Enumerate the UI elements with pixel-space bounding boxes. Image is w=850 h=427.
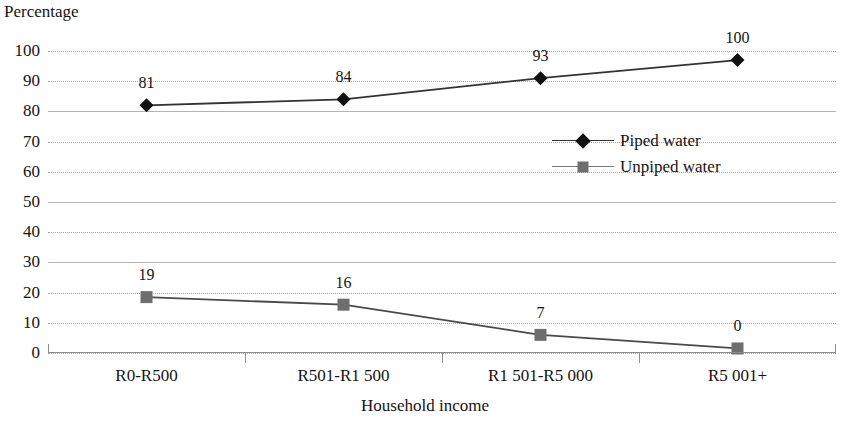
data-point-label: 19 [139, 267, 155, 283]
data-point-marker [731, 53, 745, 67]
y-tick-label: 0 [0, 344, 40, 361]
diamond-marker-icon [583, 141, 594, 152]
x-tick-label: R5 001+ [708, 366, 767, 386]
legend-label-unpiped-water: Unpiped water [614, 158, 721, 176]
data-point-label: 81 [139, 75, 155, 91]
legend-sample-piped-water [552, 131, 614, 151]
chart-figure: Percentage 1009080706050403020100 818493… [0, 0, 850, 427]
y-tick-label: 60 [0, 163, 40, 180]
chart-legend: Piped water Unpiped water [552, 130, 767, 182]
x-axis-tick [639, 353, 640, 363]
data-point-label: 84 [336, 69, 352, 85]
x-tick-label: R1 501-R5 000 [488, 366, 593, 386]
x-axis-tick [245, 353, 246, 363]
x-axis-tick [442, 353, 443, 363]
y-axis-right-stub [835, 344, 836, 353]
y-tick-label: 50 [0, 193, 40, 210]
legend-sample-unpiped-water [552, 157, 614, 177]
data-point-label: 0 [734, 318, 742, 334]
data-point-marker [338, 299, 350, 311]
legend-item-unpiped-water[interactable]: Unpiped water [552, 156, 721, 178]
series-line-piped-water [147, 60, 738, 105]
data-point-label: 16 [336, 275, 352, 291]
y-tick-label: 20 [0, 284, 40, 301]
y-axis-tick-labels: 1009080706050403020100 [0, 51, 40, 353]
legend-item-piped-water[interactable]: Piped water [552, 130, 701, 152]
y-tick-label: 30 [0, 253, 40, 270]
data-point-marker [141, 291, 153, 303]
y-tick-label: 70 [0, 133, 40, 150]
y-axis-title: Percentage [4, 2, 79, 22]
x-tick-label: R0-R500 [115, 366, 177, 386]
series-line-unpiped-water [147, 297, 738, 348]
legend-label-piped-water: Piped water [614, 132, 701, 150]
data-point-label: 7 [537, 305, 545, 321]
data-point-marker [535, 329, 547, 341]
y-tick-label: 80 [0, 102, 40, 119]
x-axis-category-labels: R0-R500R501-R1 500R1 501-R5 000R5 001+ [48, 366, 836, 390]
series-layer [48, 51, 836, 353]
plot-area: 818493100191670 [48, 51, 836, 353]
square-marker-icon [583, 167, 594, 178]
y-tick-label: 40 [0, 223, 40, 240]
y-tick-label: 90 [0, 72, 40, 89]
y-tick-label: 100 [0, 42, 40, 59]
data-point-marker [337, 92, 351, 106]
data-point-label: 100 [726, 30, 750, 46]
x-axis-title: Household income [0, 396, 850, 416]
data-point-marker [534, 71, 548, 85]
x-tick-label: R501-R1 500 [297, 366, 389, 386]
y-tick-label: 10 [0, 314, 40, 331]
data-point-label: 93 [533, 48, 549, 64]
data-point-marker [140, 98, 154, 112]
y-axis-left-stub [48, 344, 49, 353]
